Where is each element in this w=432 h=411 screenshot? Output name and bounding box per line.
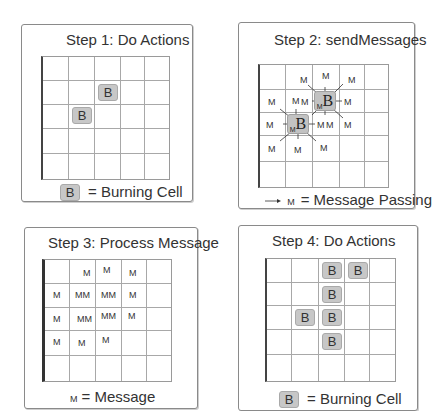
message: M [326, 120, 334, 130]
message: M [83, 268, 91, 278]
message: M [344, 120, 352, 130]
burning-cell: B [322, 262, 342, 279]
message: M [292, 96, 300, 106]
grid: B B B B B B [265, 258, 396, 382]
message: M [322, 71, 330, 81]
legend-symbol: M [70, 394, 78, 404]
message: MM [101, 290, 116, 300]
legend-text: = Burning Cell [88, 183, 183, 200]
burning-cell-legend-swatch: B [279, 391, 299, 408]
legend: B= Burning Cell [279, 390, 402, 409]
arrow-icon [265, 197, 281, 205]
burning-cell: B [98, 84, 118, 101]
panel-step-4: Step 4: Do Actions B B B B B B B= Burnin… [238, 225, 418, 411]
burning-cell: B [295, 309, 315, 326]
panel-step-3: Step 3: Process Message M M M M MM MM M … [24, 227, 198, 409]
panel-title: Step 3: Process Message [48, 234, 219, 251]
message: M [53, 290, 61, 300]
legend-text: = Message Passing [301, 191, 432, 208]
message: M [268, 144, 276, 154]
message: M [344, 97, 352, 107]
message: M [78, 338, 86, 348]
legend-text: = Message [82, 388, 156, 405]
legend: B= Burning Cell [60, 183, 183, 202]
message: M [129, 290, 137, 300]
message: M [53, 337, 61, 347]
message: M [102, 335, 110, 345]
panel-title: Step 4: Do Actions [272, 232, 395, 249]
message: M [266, 120, 274, 130]
message: M [317, 120, 325, 130]
legend: M= Message Passing [265, 191, 432, 208]
panel-step-2: Step 2: sendMessages MB MB M M M [238, 22, 415, 209]
message: M [301, 97, 309, 107]
burning-cell: B [348, 262, 368, 279]
message: M [103, 265, 111, 275]
message: MM [101, 311, 116, 321]
message: M [294, 145, 302, 155]
message: M [53, 314, 61, 324]
grid: B B [41, 56, 170, 180]
message: M [300, 75, 308, 85]
burning-cell: B [72, 107, 92, 124]
message: M [320, 143, 328, 153]
legend: M= Message [70, 388, 155, 405]
grid: MB MB M M M M M M M M M M M M M M [258, 64, 389, 188]
burning-cell: B [322, 309, 342, 326]
message: M [128, 311, 136, 321]
message: MM [77, 314, 92, 324]
message: M [348, 75, 356, 85]
burning-cell: MB [314, 91, 336, 111]
panel-title: Step 1: Do Actions [66, 31, 189, 48]
legend-text: = Burning Cell [307, 390, 402, 407]
panel-title: Step 2: sendMessages [274, 31, 427, 48]
legend-symbol: M [287, 197, 295, 207]
panel-step-1: Step 1: Do Actions B B B= Burning Cell [21, 24, 193, 202]
message: M [129, 268, 137, 278]
burning-cell: B [322, 286, 342, 303]
grid: M M M M MM MM M M MM MM M M M M [42, 259, 172, 382]
burning-cell: MB [287, 114, 309, 134]
burning-cell: B [322, 333, 342, 350]
burning-cell-legend-swatch: B [60, 184, 80, 201]
message: M [268, 97, 276, 107]
message: MM [75, 290, 90, 300]
